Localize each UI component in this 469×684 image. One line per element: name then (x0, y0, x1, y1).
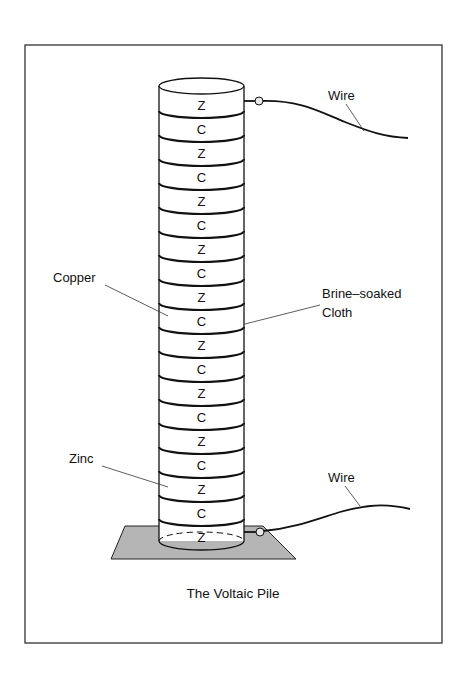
zinc-disc-letter: Z (198, 482, 206, 497)
zinc-leader (102, 466, 168, 487)
top-wire-label: Wire (328, 88, 355, 103)
zinc-disc-letter: Z (198, 386, 206, 401)
top-wire-leader (346, 104, 364, 131)
bottom-wire (263, 505, 410, 531)
bottom-wire-leader (345, 486, 360, 506)
brine-cloth-label-line2: Cloth (322, 305, 352, 320)
bottom-wire-label: Wire (328, 470, 355, 485)
top-wire-connector-icon (255, 97, 263, 105)
zinc-disc-letter: Z (198, 146, 206, 161)
copper-disc-letter: C (197, 506, 206, 521)
brine-cloth-leader (245, 305, 320, 324)
zinc-disc-letter: Z (198, 338, 206, 353)
zinc-disc-letter: Z (198, 290, 206, 305)
voltaic-pile-diagram: ZCZCZCZCZCZCZCZCZCZ Wire Wire Copper Bri… (0, 0, 469, 684)
copper-disc-letter: C (197, 410, 206, 425)
diagram-caption: The Voltaic Pile (186, 586, 279, 601)
copper-label: Copper (53, 270, 96, 285)
zinc-disc-letter: Z (198, 194, 206, 209)
zinc-label: Zinc (69, 451, 94, 466)
bottom-wire-assembly: Wire (244, 470, 410, 536)
top-wire (262, 101, 408, 138)
copper-disc-letter: C (197, 170, 206, 185)
copper-disc-letter: C (197, 218, 206, 233)
copper-disc-letter: C (197, 266, 206, 281)
copper-disc-letter: C (197, 314, 206, 329)
zinc-disc-letter: Z (198, 530, 206, 545)
pile-stack: ZCZCZCZCZCZCZCZCZCZ (159, 78, 244, 550)
copper-disc-letter: C (197, 362, 206, 377)
zinc-disc-letter: Z (198, 242, 206, 257)
zinc-disc-letter: Z (198, 98, 206, 113)
bottom-wire-connector-icon (256, 528, 264, 536)
top-wire-assembly: Wire (244, 88, 408, 138)
brine-cloth-label-line1: Brine–soaked (322, 286, 402, 301)
copper-disc-letter: C (197, 458, 206, 473)
pile-top-ellipse (159, 78, 244, 94)
copper-disc-letter: C (197, 122, 206, 137)
zinc-disc-letter: Z (198, 434, 206, 449)
